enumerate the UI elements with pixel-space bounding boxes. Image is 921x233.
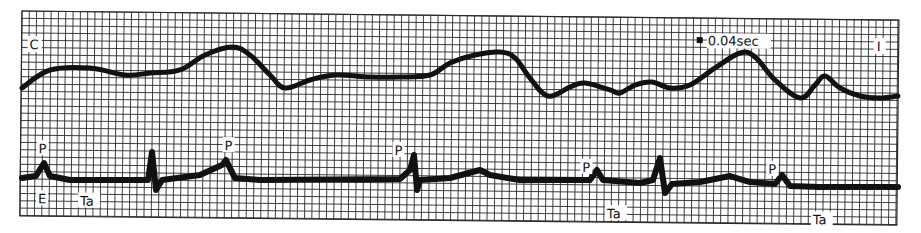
lead-label-c: C [30,37,39,52]
ecg-figure: C 0.04sec I P E Ta P P P Ta P Ta [0,0,921,233]
p-wave-label-2: P [225,138,233,153]
p-wave-label-1: P [38,141,46,156]
ta-label-3: Ta [812,212,827,227]
p-wave-label-3: P [394,143,402,158]
ta-label-2: Ta [606,206,621,221]
ta-label-1: Ta [79,194,94,209]
p-wave-label-4: P [582,160,590,175]
p-wave-label-5: P [768,162,776,177]
lead-label-i: I [877,39,881,54]
scale-square-icon [697,37,703,43]
paper: C 0.04sec I P E Ta P P P Ta P Ta [20,11,900,228]
scale-label: 0.04sec [708,33,759,49]
e-label: E [38,191,46,206]
